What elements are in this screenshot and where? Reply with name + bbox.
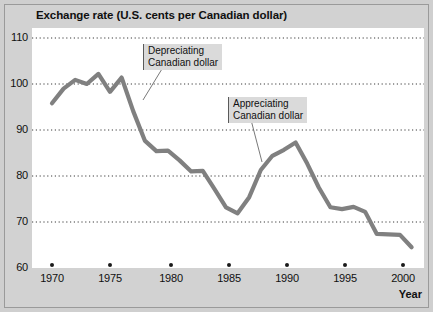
x-axis-dot-2000 — [401, 263, 405, 267]
x-axis-dot-1990 — [285, 263, 289, 267]
x-axis-dot-1980 — [169, 263, 173, 267]
plot-area — [32, 28, 424, 268]
y-axis-tick-70: 70 — [2, 215, 28, 227]
x-axis-label-1995: 1995 — [325, 272, 365, 284]
x-axis-title: Year — [399, 288, 422, 300]
x-axis-label-1990: 1990 — [267, 272, 307, 284]
annotation-appreciating: Appreciating Canadian dollar — [228, 97, 307, 123]
annotation-depreciating-line2: Canadian dollar — [148, 57, 218, 69]
x-axis-label-1970: 1970 — [32, 272, 72, 284]
y-axis-tick-100: 100 — [2, 77, 28, 89]
annotation-appreciating-line1: Appreciating — [233, 98, 303, 110]
x-axis-dot-1985 — [227, 263, 231, 267]
annotation-depreciating: Depreciating Canadian dollar — [143, 44, 222, 70]
y-axis-tick-80: 80 — [2, 169, 28, 181]
y-axis-tick-60: 60 — [2, 261, 28, 273]
x-axis-dot-1970 — [50, 263, 54, 267]
x-axis-label-1975: 1975 — [90, 272, 130, 284]
x-axis-dot-1995 — [343, 263, 347, 267]
x-axis-label-1985: 1985 — [209, 272, 249, 284]
x-axis-dot-1975 — [108, 263, 112, 267]
x-axis-label-1980: 1980 — [151, 272, 191, 284]
exchange-rate-line-chart — [32, 28, 424, 268]
y-axis-tick-110: 110 — [2, 31, 28, 43]
y-axis-tick-90: 90 — [2, 123, 28, 135]
annotation-appreciating-line2: Canadian dollar — [233, 110, 303, 122]
x-axis-label-2000: 2000 — [383, 272, 423, 284]
chart-title: Exchange rate (U.S. cents per Canadian d… — [36, 9, 287, 21]
annotation-depreciating-line1: Depreciating — [148, 45, 218, 57]
gridlines — [32, 38, 424, 222]
chart-figure: Exchange rate (U.S. cents per Canadian d… — [0, 0, 433, 312]
